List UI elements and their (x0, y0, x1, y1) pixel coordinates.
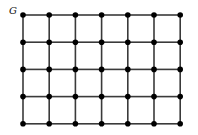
graph-vertex (46, 121, 52, 127)
graph-vertex (20, 39, 26, 45)
graph-vertex (125, 121, 131, 127)
graph-vertex (46, 94, 52, 100)
graph-vertex (73, 67, 79, 73)
graph-vertex (99, 39, 105, 45)
graph-vertex (151, 12, 157, 18)
graph-vertex (20, 121, 26, 127)
graph-vertex (99, 94, 105, 100)
graph-vertex (177, 39, 183, 45)
grid-graph-diagram: G (0, 0, 198, 135)
graph-vertex (99, 67, 105, 73)
graph-vertex (73, 12, 79, 18)
graph-vertex (151, 67, 157, 73)
graph-vertex (99, 12, 105, 18)
graph-vertex (151, 121, 157, 127)
graph-vertex (20, 94, 26, 100)
graph-vertex (99, 121, 105, 127)
graph-vertex (177, 94, 183, 100)
graph-vertex (20, 67, 26, 73)
graph-vertex (177, 12, 183, 18)
graph-vertex (73, 39, 79, 45)
graph-vertex (177, 67, 183, 73)
graph-vertex (73, 121, 79, 127)
graph-vertex (125, 39, 131, 45)
graph-vertex (46, 67, 52, 73)
graph-label-g: G (9, 5, 17, 16)
graph-vertex (177, 121, 183, 127)
graph-vertex (151, 39, 157, 45)
graph-vertex (46, 12, 52, 18)
graph-vertex (125, 12, 131, 18)
graph-vertex (125, 94, 131, 100)
graph-vertex (20, 12, 26, 18)
graph-vertex (46, 39, 52, 45)
graph-vertex (125, 67, 131, 73)
graph-vertex (73, 94, 79, 100)
graph-vertex (151, 94, 157, 100)
